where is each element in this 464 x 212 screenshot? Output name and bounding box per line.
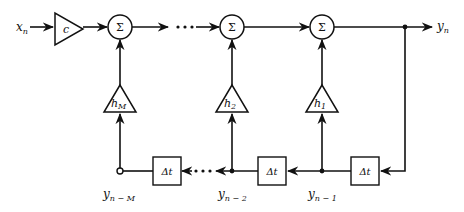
tap-2-junction (230, 169, 235, 174)
delay-label: Δt (160, 166, 173, 177)
gain-block-c: c (55, 13, 83, 45)
sum-symbol: Σ (116, 21, 124, 34)
tap-1-junction (320, 169, 325, 174)
delay-label: Δt (358, 166, 371, 177)
filter-block-diagram: c Σ Σ Σ hM h2 h1 Δt Δt Δt xn yn yn − (0, 0, 464, 212)
tap-label-2: yn − 2 (217, 187, 247, 203)
input-label: xn (16, 20, 28, 36)
tap-label-1: yn − 1 (307, 187, 337, 203)
sum-node-1: Σ (310, 15, 334, 39)
coef-block-h-m: hM (104, 85, 136, 112)
output-junction (403, 25, 408, 30)
output-label: yn (436, 19, 449, 35)
tap-m-terminal (117, 168, 123, 174)
sum-symbol: Σ (228, 21, 236, 34)
sum-node-2: Σ (220, 15, 244, 39)
top-ellipsis (176, 25, 193, 28)
bottom-ellipsis (194, 169, 211, 172)
tap-label-m: yn − M (102, 187, 136, 203)
coef-block-h-1: h1 (306, 85, 338, 112)
sum-node-m: Σ (108, 15, 132, 39)
delay-block-1: Δt (351, 157, 379, 185)
delay-block-m: Δt (153, 157, 181, 185)
sum-symbol: Σ (318, 21, 326, 34)
delay-label: Δt (265, 166, 278, 177)
coef-block-h-2: h2 (216, 85, 248, 112)
feedback-wire (381, 27, 405, 171)
delay-block-2: Δt (258, 157, 286, 185)
gain-label: c (63, 23, 69, 36)
